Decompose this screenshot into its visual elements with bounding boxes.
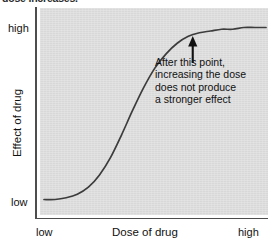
y-axis-title: Effect of drug bbox=[11, 75, 23, 171]
y-axis-tick-high: high bbox=[8, 22, 29, 34]
annotation-line: does not produce bbox=[155, 81, 246, 93]
plot-panel-texture bbox=[40, 8, 268, 215]
dose-response-figure: dose increases. high low low high Effect… bbox=[0, 0, 275, 248]
clipped-caption-fragment: dose increases. bbox=[2, 0, 162, 3]
plateau-annotation-text: After this point, increasing the dose do… bbox=[155, 56, 246, 106]
annotation-line: a stronger effect bbox=[155, 93, 246, 105]
annotation-line: increasing the dose bbox=[155, 68, 246, 80]
x-axis-line bbox=[35, 218, 268, 220]
x-axis-tick-low: low bbox=[36, 226, 53, 238]
y-axis-tick-low: low bbox=[11, 196, 28, 208]
y-axis-line bbox=[35, 7, 37, 219]
x-axis-title: Dose of drug bbox=[90, 226, 200, 238]
x-axis-tick-high: high bbox=[238, 226, 259, 238]
annotation-line: After this point, bbox=[155, 56, 246, 68]
plot-panel bbox=[40, 8, 268, 215]
